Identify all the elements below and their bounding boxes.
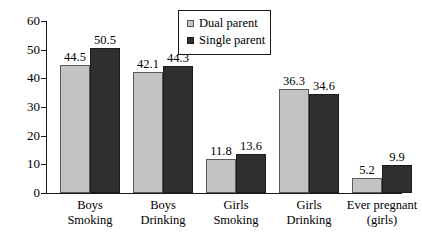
legend-label-single-parent: Single parent [199, 34, 265, 47]
category-label: Ever pregnant(girls) [327, 198, 422, 228]
y-tick-label: 60 [6, 14, 40, 27]
y-tick-mark [41, 50, 46, 51]
legend-item-single-parent: Single parent [179, 32, 270, 49]
bar [90, 48, 120, 193]
bar-value-label: 9.9 [389, 151, 405, 164]
legend-swatch-dual-parent-icon [187, 20, 194, 27]
bar-value-label: 50.5 [94, 34, 116, 47]
bar [236, 154, 266, 193]
bar-item: 42.1 [133, 21, 163, 193]
bar-item: 50.5 [90, 21, 120, 193]
y-tick-label: 40 [6, 71, 40, 84]
bar [206, 159, 236, 193]
bar [309, 94, 339, 193]
y-tick-label: 50 [6, 43, 40, 56]
legend-swatch-single-parent-icon [187, 37, 194, 44]
bar-value-label: 42.1 [137, 58, 159, 71]
bar-group: 36.334.6 [279, 21, 339, 193]
bar-group: 5.29.9 [352, 21, 412, 193]
y-tick-mark [41, 78, 46, 79]
bar [382, 165, 412, 193]
y-tick-mark [41, 164, 46, 165]
bar-value-label: 36.3 [283, 75, 305, 88]
y-tick-mark [41, 21, 46, 22]
y-tick-mark [41, 193, 46, 194]
bar-item: 34.6 [309, 21, 339, 193]
bar-item: 36.3 [279, 21, 309, 193]
bar-value-label: 5.2 [359, 164, 375, 177]
x-axis-line [46, 193, 402, 194]
legend: Dual parent Single parent [178, 10, 271, 55]
legend-item-dual-parent: Dual parent [179, 15, 270, 32]
bar [352, 178, 382, 193]
y-tick-mark [41, 136, 46, 137]
y-tick-label: 20 [6, 129, 40, 142]
bar-value-label: 44.5 [64, 51, 86, 64]
category-label-line: (girls) [327, 213, 422, 228]
bar-item: 9.9 [382, 21, 412, 193]
bar-value-label: 13.6 [240, 140, 262, 153]
bar [163, 66, 193, 193]
bar [279, 89, 309, 193]
legend-label-dual-parent: Dual parent [199, 17, 258, 30]
bar-value-label: 11.8 [210, 145, 231, 158]
bar-group: 44.550.5 [60, 21, 120, 193]
bar-value-label: 34.6 [313, 80, 335, 93]
category-label-line: Ever pregnant [327, 198, 422, 213]
bar [60, 65, 90, 193]
bar-item: 5.2 [352, 21, 382, 193]
y-tick-label: 10 [6, 157, 40, 170]
y-axis-line [46, 21, 47, 194]
y-tick-label: 30 [6, 100, 40, 113]
bar-item: 44.5 [60, 21, 90, 193]
y-tick-mark [41, 107, 46, 108]
bar [133, 72, 163, 193]
